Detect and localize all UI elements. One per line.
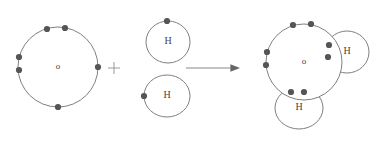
bottom-dot [55, 104, 61, 110]
left-upper-dot [16, 54, 22, 60]
left-lower-dot [263, 62, 269, 68]
top-left-dot [44, 26, 50, 32]
product-hydrogen-right-symbol-label: H [343, 45, 350, 56]
right-dot [95, 64, 101, 70]
reactant-hydrogen-2-atom: H [141, 75, 190, 117]
top-right-dot [62, 25, 68, 31]
arrow-head-icon [230, 64, 240, 71]
reaction-arrow [186, 64, 240, 71]
hydrogen-1-valence-electrons [164, 18, 170, 24]
reaction-diagram-canvas: o H H H [0, 0, 389, 146]
left-upper-dot [264, 49, 270, 55]
oxygen-symbol-label: o [56, 61, 61, 71]
product-oxygen-atom: o [266, 24, 342, 100]
top-right-dot [308, 21, 314, 27]
left-dot [141, 93, 147, 99]
reactant-hydrogen-1-atom: H [146, 18, 190, 63]
hydrogen-2-symbol-label: H [163, 89, 170, 100]
left-lower-dot [16, 67, 22, 73]
bond-dot-lower [325, 54, 331, 60]
product-hydrogen-bottom-symbol-label: H [295, 101, 302, 112]
bond-dot-right [301, 89, 307, 95]
hydrogen-1-symbol-label: H [164, 35, 171, 46]
product-oxygen-symbol-label: o [302, 56, 307, 66]
bond-dot-upper [326, 42, 332, 48]
top-left-dot [290, 22, 296, 28]
reactant-oxygen-atom: o [16, 25, 101, 110]
hydrogen-2-valence-electrons [141, 93, 147, 99]
plus-operator [108, 62, 120, 74]
top-dot [164, 18, 170, 24]
bond-dot-left [288, 89, 294, 95]
product-water-molecule: H H o [263, 21, 369, 129]
reaction-diagram: o H H H [0, 0, 389, 146]
